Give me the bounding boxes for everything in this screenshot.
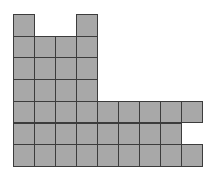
grid-square — [181, 144, 203, 167]
grid-square — [97, 123, 119, 146]
grid-square — [34, 123, 56, 146]
grid-square — [34, 79, 56, 102]
grid-square — [76, 36, 98, 59]
grid-square — [160, 101, 182, 124]
grid-square — [139, 123, 161, 146]
grid-square — [13, 36, 35, 59]
grid-square — [76, 79, 98, 102]
grid-square — [76, 144, 98, 167]
grid-square — [34, 144, 56, 167]
grid-square — [160, 144, 182, 167]
grid-square — [118, 144, 140, 167]
grid-square — [76, 123, 98, 146]
grid-square — [34, 57, 56, 80]
grid-square — [76, 101, 98, 124]
grid-square — [97, 144, 119, 167]
grid-square — [76, 57, 98, 80]
grid-square — [139, 101, 161, 124]
grid-square — [160, 123, 182, 146]
grid-square — [55, 36, 77, 59]
grid-square — [118, 123, 140, 146]
grid-square — [13, 57, 35, 80]
grid-square — [55, 101, 77, 124]
grid-square — [55, 57, 77, 80]
grid-square — [139, 144, 161, 167]
grid-square — [181, 101, 203, 124]
square-grid-figure — [0, 0, 213, 181]
grid-square — [13, 79, 35, 102]
grid-square — [13, 101, 35, 124]
grid-square — [55, 79, 77, 102]
grid-square — [97, 101, 119, 124]
grid-square — [55, 123, 77, 146]
grid-square — [13, 123, 35, 146]
grid-square — [34, 101, 56, 124]
grid-square — [76, 14, 98, 37]
grid-square — [55, 144, 77, 167]
grid-square — [118, 101, 140, 124]
grid-square — [13, 144, 35, 167]
grid-square — [13, 14, 35, 37]
grid-square — [34, 36, 56, 59]
